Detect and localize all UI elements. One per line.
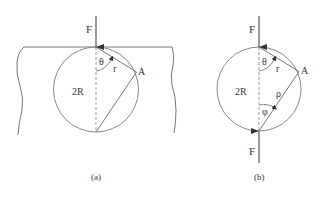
theta-label-a: θ: [99, 56, 104, 67]
plate-left-wavy-edge: [17, 47, 24, 135]
diameter-label-b: 2R: [235, 86, 247, 97]
diagram-canvas: F θ r A 2R (a) F F θ r A 2R ρ φ (b): [0, 0, 325, 197]
panel-a: F θ r A 2R (a): [17, 16, 176, 182]
caption-b: (b): [254, 172, 265, 182]
force-label-a: F: [86, 23, 92, 35]
point-a-label-b: A: [301, 65, 309, 76]
phi-label-b: φ: [262, 106, 268, 117]
caption-a: (a): [91, 172, 101, 182]
chord-bottom-to-a: [96, 72, 137, 132]
plate-right-wavy-edge: [171, 47, 176, 133]
r-label-a: r: [113, 63, 117, 74]
force-bottom-label-b: F: [249, 145, 255, 157]
point-a-label: A: [138, 66, 146, 77]
r-label-b: r: [276, 63, 280, 74]
chord-rho-b: [259, 72, 299, 132]
panel-b: F F θ r A 2R ρ φ (b): [217, 16, 309, 182]
diameter-label-a: 2R: [72, 86, 84, 97]
rho-label-b: ρ: [276, 88, 281, 99]
theta-label-b: θ: [262, 56, 267, 67]
force-top-label-b: F: [249, 23, 255, 35]
